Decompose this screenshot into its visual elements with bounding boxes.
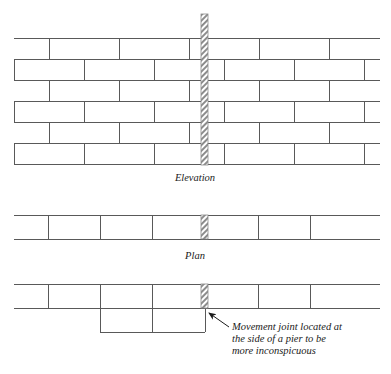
caption-plan: Plan [184, 250, 205, 261]
annotation-line-1: Movement joint located at [231, 321, 343, 332]
annotation-line-2: the side of a pier to be [232, 333, 326, 344]
technical-drawing: Elevation Plan [0, 0, 391, 374]
movement-joint-plan-pier [201, 284, 208, 308]
movement-joint-elevation [201, 14, 208, 165]
caption-elevation: Elevation [174, 172, 215, 183]
movement-joint-plan [201, 215, 208, 239]
canvas-background [0, 0, 391, 374]
annotation-line-3: more inconspicuous [232, 345, 316, 356]
figure-canvas: Elevation Plan [0, 0, 391, 374]
